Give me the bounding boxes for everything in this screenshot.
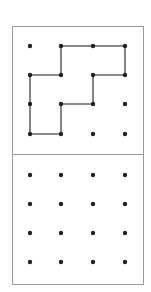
grid-dot bbox=[91, 173, 95, 177]
grid-dot bbox=[59, 73, 63, 77]
polyomino-outline bbox=[30, 46, 125, 134]
grid-dot bbox=[59, 102, 63, 106]
grid-dot bbox=[123, 173, 127, 177]
grid-dot bbox=[123, 132, 127, 136]
grid-dot bbox=[59, 132, 63, 136]
grid-dot bbox=[91, 44, 95, 48]
grid-dot bbox=[59, 173, 63, 177]
grid-dot bbox=[123, 202, 127, 206]
grid-dot bbox=[123, 260, 127, 264]
grid-dot bbox=[28, 260, 32, 264]
grid-dot bbox=[28, 73, 32, 77]
grid-dot bbox=[59, 260, 63, 264]
shape-outline-path bbox=[30, 46, 125, 134]
grid-dot bbox=[28, 202, 32, 206]
bottom-dot-grid bbox=[28, 173, 127, 264]
outer-frame bbox=[13, 27, 144, 285]
grid-dot bbox=[28, 173, 32, 177]
dot-grid-diagram bbox=[0, 0, 151, 292]
grid-dot bbox=[59, 231, 63, 235]
grid-dot bbox=[123, 44, 127, 48]
grid-dot bbox=[28, 132, 32, 136]
grid-dot bbox=[123, 102, 127, 106]
grid-dot bbox=[91, 102, 95, 106]
grid-dot bbox=[91, 231, 95, 235]
grid-dot bbox=[28, 102, 32, 106]
grid-dot bbox=[28, 231, 32, 235]
grid-dot bbox=[123, 231, 127, 235]
grid-dot bbox=[91, 73, 95, 77]
grid-dot bbox=[123, 73, 127, 77]
grid-dot bbox=[59, 202, 63, 206]
grid-dot bbox=[59, 44, 63, 48]
grid-dot bbox=[91, 202, 95, 206]
grid-dot bbox=[91, 132, 95, 136]
grid-dot bbox=[91, 260, 95, 264]
grid-dot bbox=[28, 44, 32, 48]
top-dot-grid bbox=[28, 44, 127, 136]
